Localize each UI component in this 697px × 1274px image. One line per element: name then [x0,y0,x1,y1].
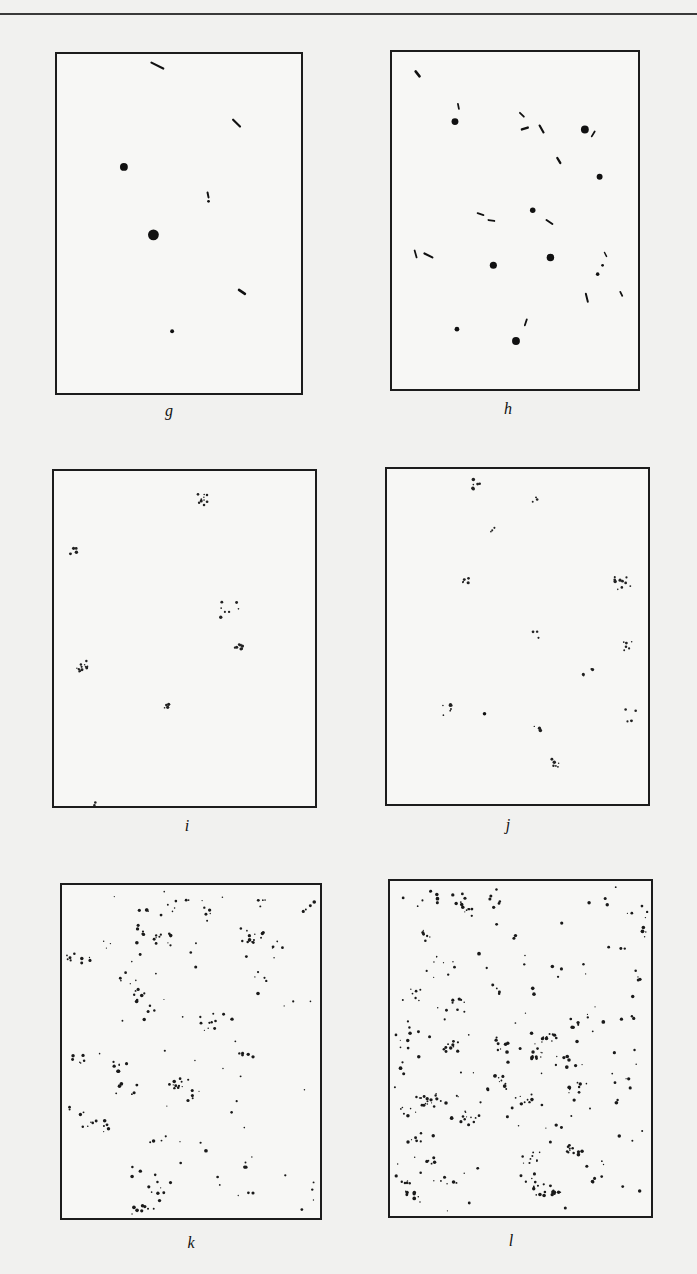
specimen-marks [387,469,648,804]
specimen-marks [390,881,651,1216]
specimen-marks [57,54,301,393]
panel-label-i: i [185,817,189,835]
header-rule [0,13,697,15]
specimen-marks [392,52,638,389]
figure-panel-k [60,883,322,1220]
specimen-marks [62,885,320,1218]
panel-label-l: l [509,1232,513,1250]
panel-label-j: j [506,816,510,834]
panel-label-k: k [187,1234,194,1252]
panel-label-g: g [165,402,173,420]
panel-label-h: h [504,400,512,418]
specimen-marks [54,471,315,806]
figure-panel-l [388,879,653,1218]
figure-panel-h [390,50,640,391]
figure-panel-j [385,467,650,806]
figure-panel-g [55,52,303,395]
figure-panel-i [52,469,317,808]
